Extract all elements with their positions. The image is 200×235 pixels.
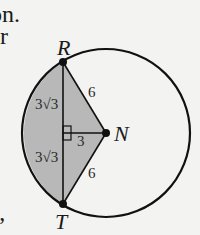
- length-perp: 3: [77, 133, 85, 149]
- label-r: R: [56, 35, 71, 60]
- length-rn: 6: [88, 84, 96, 100]
- circle-diagram: R T N 6 6 3 3√3 3√3: [0, 0, 200, 235]
- point-n: [102, 129, 110, 137]
- length-lower-half-chord: 3√3: [35, 149, 58, 165]
- point-t: [59, 200, 67, 208]
- length-tn: 6: [88, 165, 96, 181]
- length-upper-half-chord: 3√3: [35, 96, 58, 112]
- label-n: N: [113, 121, 130, 146]
- label-t: T: [55, 209, 69, 234]
